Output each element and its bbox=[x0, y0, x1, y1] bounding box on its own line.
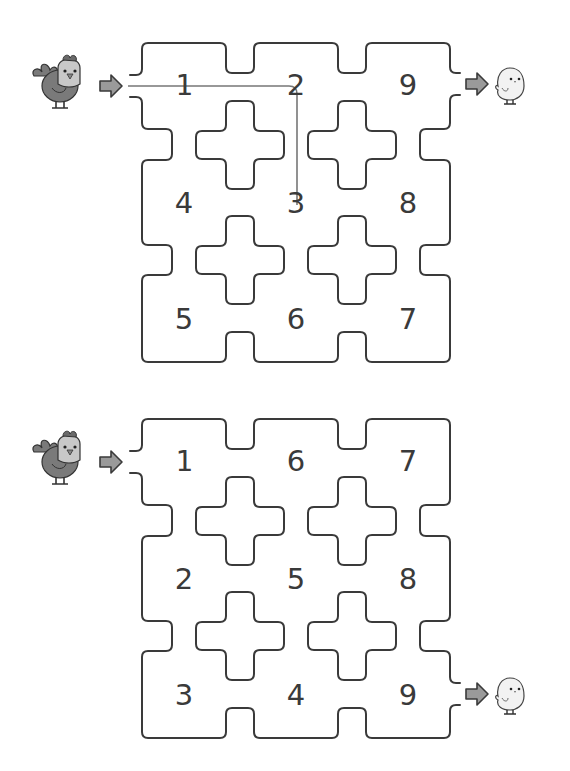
maze-cell-number[interactable]: 2 bbox=[164, 565, 204, 594]
maze-cell-number[interactable]: 4 bbox=[164, 189, 204, 218]
maze-cross-island bbox=[308, 216, 396, 304]
hen-icon bbox=[33, 55, 80, 108]
maze-cell-number[interactable]: 3 bbox=[164, 681, 204, 710]
maze-cell-number[interactable]: 7 bbox=[388, 447, 428, 476]
hen-icon bbox=[33, 431, 80, 484]
maze-cell-number[interactable]: 8 bbox=[388, 565, 428, 594]
maze-cell-number[interactable]: 1 bbox=[164, 447, 204, 476]
maze-cross-island bbox=[196, 101, 284, 189]
maze-cross-island bbox=[196, 477, 284, 565]
arrow-right-icon bbox=[466, 683, 488, 705]
maze-cell-number[interactable]: 6 bbox=[276, 447, 316, 476]
maze-cell-number[interactable]: 4 bbox=[276, 681, 316, 710]
arrow-right-icon bbox=[466, 73, 488, 95]
maze-cell-number[interactable]: 7 bbox=[388, 305, 428, 334]
arrow-right-icon bbox=[100, 451, 122, 473]
maze-cell-number[interactable]: 5 bbox=[164, 305, 204, 334]
maze-cross-island bbox=[308, 592, 396, 680]
maze-cell-number[interactable]: 5 bbox=[276, 565, 316, 594]
maze-cross-island bbox=[308, 101, 396, 189]
maze-cell-number[interactable]: 2 bbox=[276, 71, 316, 100]
example-path-line bbox=[128, 86, 297, 205]
arrow-right-icon bbox=[100, 75, 122, 97]
maze-cross-island bbox=[196, 592, 284, 680]
maze-cell-number[interactable]: 8 bbox=[388, 189, 428, 218]
maze-cell-number[interactable]: 9 bbox=[388, 681, 428, 710]
maze-puzzle-top: 129438567 bbox=[0, 0, 570, 360]
maze-cell-number[interactable]: 6 bbox=[276, 305, 316, 334]
maze-cross-island bbox=[196, 216, 284, 304]
maze-cross-island bbox=[308, 477, 396, 565]
chick-icon bbox=[496, 678, 524, 714]
maze-cell-number[interactable]: 3 bbox=[276, 189, 316, 218]
chick-icon bbox=[496, 68, 524, 104]
maze-cell-number[interactable]: 9 bbox=[388, 71, 428, 100]
maze-cell-number[interactable]: 1 bbox=[164, 71, 204, 100]
maze-puzzle-bottom: 167258349 bbox=[0, 376, 570, 736]
